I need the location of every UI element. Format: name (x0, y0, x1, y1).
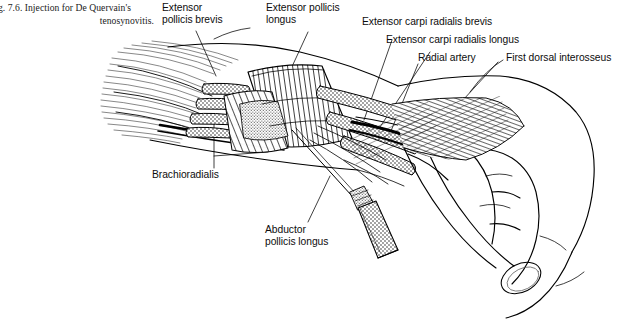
extensor-retinaculum (224, 65, 352, 153)
label-abductor-pollicis-longus: Abductor pollicis longus (265, 224, 328, 248)
figure-caption-line-1: g. 7.6. Injection for De Quervain's (0, 2, 154, 15)
figure-caption-line-2: tenosynovitis. (0, 15, 154, 28)
anatomical-illustration (0, 0, 621, 319)
label-brachioradialis: Brachioradialis (152, 169, 219, 181)
figure-caption: g. 7.6. Injection for De Quervain's teno… (0, 2, 154, 27)
label-first-dorsal-interosseus: First dorsal interosseus (506, 52, 611, 64)
figure-de-quervain-injection: g. 7.6. Injection for De Quervain's teno… (0, 0, 621, 319)
label-extensor-carpi-radialis-brevis: Extensor carpi radialis brevis (362, 16, 492, 28)
label-extensor-carpi-radialis-longus: Extensor carpi radialis longus (386, 34, 519, 46)
label-radial-artery: Radial artery (418, 52, 476, 64)
label-extensor-pollicis-brevis: Extensor pollicis brevis (162, 2, 222, 26)
label-extensor-pollicis-longus: Extensor pollicis longus (266, 2, 340, 26)
